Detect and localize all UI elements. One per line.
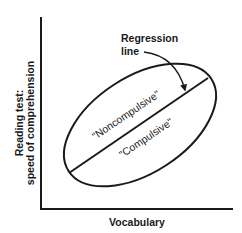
x-axis-title: Vocabulary [109,216,165,228]
diagram-canvas: Regression line "Noncompulsive" "Compuls… [0,0,242,233]
annotation-label-line2: line [121,45,139,57]
regression-line [69,78,208,173]
regression-diagram: Regression line "Noncompulsive" "Compuls… [0,0,242,233]
y-axis-title-line2: speed of comprehension [24,61,36,185]
annotation-arrow-icon [144,52,185,90]
annotation-label-line1: Regression [121,32,178,44]
